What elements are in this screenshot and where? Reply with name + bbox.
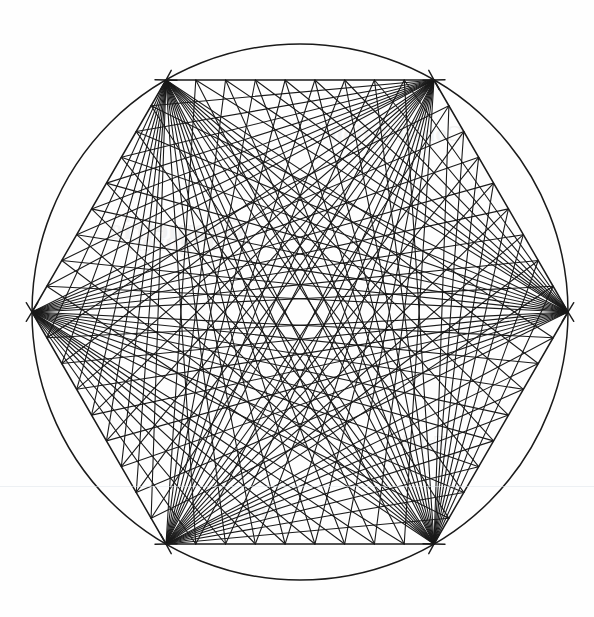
string-chord <box>106 80 166 441</box>
circumscribed-circle <box>32 44 568 580</box>
vertex-tick-mark <box>423 80 445 81</box>
string-chord <box>166 235 523 544</box>
geometric-construction-drawing <box>0 0 594 617</box>
string-chord <box>32 312 226 544</box>
string-chord <box>166 364 538 544</box>
figure-canvas: Geometrie Figuren Construction Tafel Kre… <box>0 0 594 617</box>
string-chord <box>434 286 553 544</box>
hexagon-edge <box>434 312 568 544</box>
hexagon-edge <box>32 312 166 544</box>
string-chord <box>434 183 494 544</box>
hexagon-edge <box>32 80 166 312</box>
vertex-tick-mark <box>155 544 177 545</box>
vertex-tick-mark-layer <box>26 70 574 553</box>
hexagon-edge <box>434 80 568 312</box>
string-chord <box>374 80 568 312</box>
string-chord <box>285 80 568 312</box>
circumscribed-circle-layer <box>32 44 568 580</box>
string-chord <box>47 80 166 338</box>
string-art-chord-layer <box>32 80 568 544</box>
hexagon-edge-layer <box>32 80 568 544</box>
